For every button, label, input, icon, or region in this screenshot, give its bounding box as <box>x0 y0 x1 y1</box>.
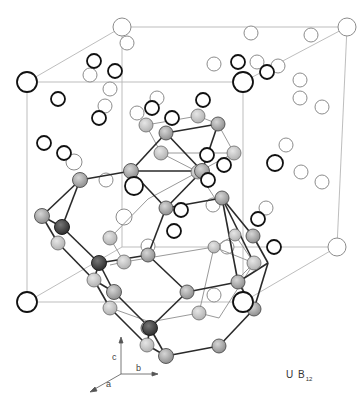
axis-label-a: a <box>106 379 111 389</box>
axis-label-b: b <box>136 363 141 373</box>
axis-label-c: c <box>112 352 117 362</box>
formula-element-b: B <box>298 369 306 380</box>
formula-label: U B12 <box>286 369 312 382</box>
a-axis-arrow-icon <box>90 387 97 392</box>
crystal-structure-diagram <box>0 0 362 405</box>
formula-element-u: U <box>286 369 294 380</box>
c-axis-arrow-icon <box>119 337 123 343</box>
formula-subscript: 12 <box>306 376 313 382</box>
b-axis-arrow-icon <box>152 372 158 376</box>
